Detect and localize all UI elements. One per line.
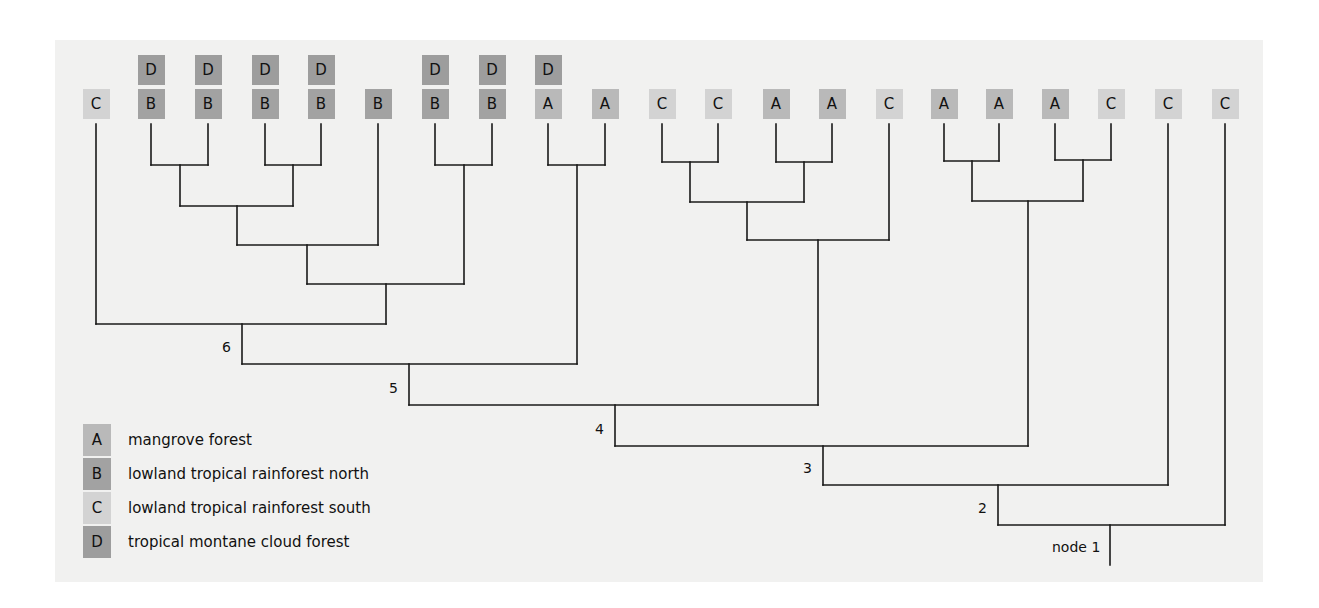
legend-label: tropical montane cloud forest — [128, 533, 349, 551]
legend-item-d: Dtropical montane cloud forest — [83, 526, 349, 558]
leaf-habitat-c: C — [876, 89, 903, 119]
legend-item-b: Blowland tropical rainforest north — [83, 458, 369, 490]
legend-label: lowland tropical rainforest south — [128, 499, 371, 517]
leaf-habitat-c: C — [83, 89, 110, 119]
leaf-habitat-a: A — [592, 89, 619, 119]
leaf-habitat-b: B — [138, 89, 165, 119]
legend-swatch: B — [83, 458, 111, 490]
leaf-habitat-b: B — [365, 89, 392, 119]
legend-swatch: D — [83, 526, 111, 558]
leaf-habitat-d: D — [535, 55, 562, 85]
leaf-habitat-d: D — [138, 55, 165, 85]
leaf-habitat-d: D — [195, 55, 222, 85]
leaf-habitat-d: D — [308, 55, 335, 85]
leaf-habitat-b: B — [422, 89, 449, 119]
legend-label: mangrove forest — [128, 431, 252, 449]
node-label: 4 — [595, 421, 604, 437]
leaf-habitat-d: D — [252, 55, 279, 85]
leaf-habitat-a: A — [931, 89, 958, 119]
leaf-habitat-b: B — [252, 89, 279, 119]
leaf-habitat-b: B — [479, 89, 506, 119]
leaf-habitat-c: C — [1212, 89, 1239, 119]
legend-item-a: Amangrove forest — [83, 424, 252, 456]
leaf-habitat-b: B — [308, 89, 335, 119]
leaf-habitat-c: C — [649, 89, 676, 119]
leaf-habitat-a: A — [819, 89, 846, 119]
leaf-habitat-b: B — [195, 89, 222, 119]
leaf-habitat-c: C — [705, 89, 732, 119]
legend-swatch: C — [83, 492, 111, 524]
leaf-habitat-d: D — [479, 55, 506, 85]
leaf-habitat-a: A — [535, 89, 562, 119]
leaf-habitat-a: A — [763, 89, 790, 119]
node-label: 3 — [803, 460, 812, 476]
node-label: 6 — [222, 339, 231, 355]
leaf-habitat-c: C — [1155, 89, 1182, 119]
node-label: 2 — [978, 500, 987, 516]
leaf-habitat-a: A — [986, 89, 1013, 119]
leaf-habitat-c: C — [1098, 89, 1125, 119]
node-label: node 1 — [1052, 539, 1100, 555]
legend-label: lowland tropical rainforest north — [128, 465, 369, 483]
legend-swatch: A — [83, 424, 111, 456]
leaf-habitat-d: D — [422, 55, 449, 85]
node-label: 5 — [389, 380, 398, 396]
leaf-habitat-a: A — [1042, 89, 1069, 119]
legend-item-c: Clowland tropical rainforest south — [83, 492, 371, 524]
